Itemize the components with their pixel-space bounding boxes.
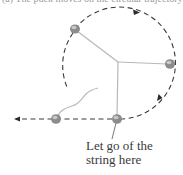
puck-bottom [112,114,122,124]
arrow-left-icon [14,117,20,122]
string-right [118,62,167,64]
loose-string [58,88,98,116]
puck-top-left [70,25,80,34]
puck-right [165,59,175,69]
label-line-1: Let go of the [86,139,153,153]
figure-caption-partial: (a) The puck moves on the circular traje… [2,0,183,4]
label-line-2: string here [86,153,153,167]
release-point-label: Let go of the string here [86,139,153,167]
string-bottom [117,62,118,116]
circular-motion-diagram: (a) The puck moves on the circular traje… [0,0,183,175]
label-leader-line [112,123,116,139]
string-top-left [77,31,118,62]
puck-released [51,114,61,124]
left-trajectory-arc [63,33,73,87]
circular-trajectory-path [75,7,175,119]
